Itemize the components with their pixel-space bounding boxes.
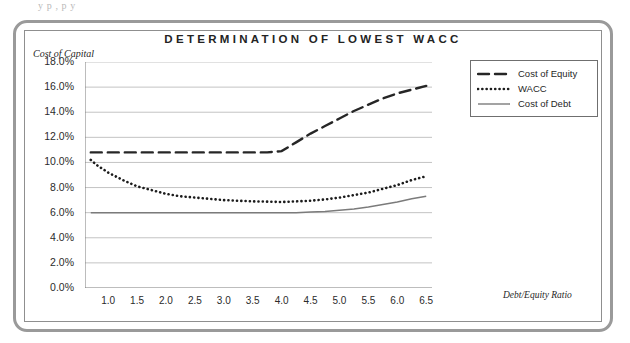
legend-key-dotted — [477, 84, 511, 94]
y-axis-tick-label: 10.0% — [8, 155, 74, 167]
y-axis-tick-label: 12.0% — [8, 130, 74, 142]
legend-key-dashed — [477, 69, 511, 79]
series-line-cost-of-equity — [91, 86, 426, 153]
y-axis-tick-label: 18.0% — [8, 55, 74, 67]
series-line-wacc — [91, 160, 426, 202]
plot-area — [85, 62, 432, 288]
legend-item: Cost of Debt — [477, 96, 591, 111]
y-axis-tick-label: 14.0% — [8, 105, 74, 117]
x-axis-tick-label: 6.5 — [406, 295, 446, 306]
legend-key-solid — [477, 99, 511, 109]
legend-item: Cost of Equity — [477, 66, 591, 81]
plot-svg — [85, 62, 432, 288]
chart-figure: y p , p y DETERMINATION OF LOWEST WACC C… — [0, 0, 630, 343]
series-line-cost-of-debt — [91, 196, 426, 212]
y-axis-tick-label: 2.0% — [8, 256, 74, 268]
y-axis-tick-label: 6.0% — [8, 206, 74, 218]
legend-label: Cost of Equity — [518, 68, 577, 79]
y-axis-tick-label: 8.0% — [8, 181, 74, 193]
page-title: DETERMINATION OF LOWEST WACC — [24, 33, 602, 45]
legend-label: WACC — [518, 83, 547, 94]
x-axis-title: Debt/Equity Ratio — [503, 290, 572, 300]
chart-legend: Cost of EquityWACCCost of Debt — [470, 60, 598, 117]
legend-label: Cost of Debt — [518, 98, 571, 109]
y-axis-tick-label: 0.0% — [8, 281, 74, 293]
page-bleed-text: y p , p y — [0, 0, 630, 12]
y-axis-tick-labels: 0.0%2.0%4.0%6.0%8.0%10.0%12.0%14.0%16.0%… — [0, 0, 85, 343]
y-axis-tick-label: 4.0% — [8, 231, 74, 243]
y-axis-tick-label: 16.0% — [8, 80, 74, 92]
legend-item: WACC — [477, 81, 591, 96]
